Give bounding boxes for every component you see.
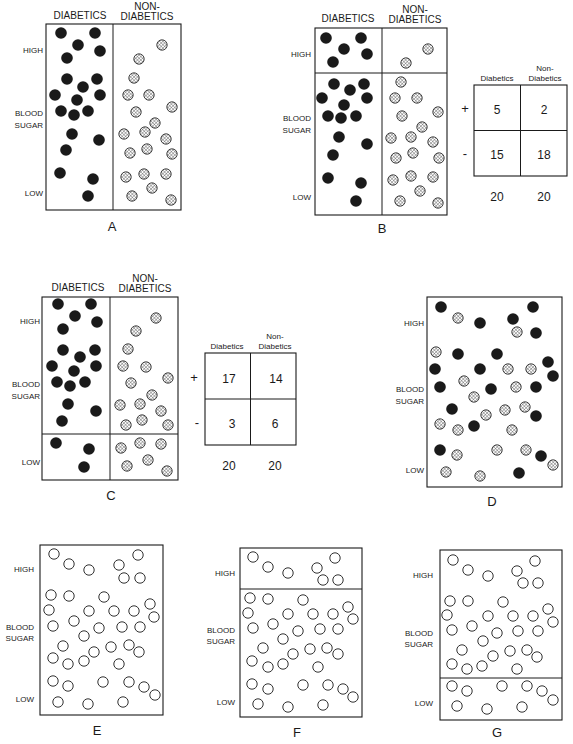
diabetic-dot [513,467,525,479]
non-diabetic-dot [435,419,445,429]
diabetic-dot [361,92,373,104]
diabetic-dot [94,89,106,101]
axis-sugar: SUGAR [283,126,312,135]
open-circle [447,659,457,669]
row-sign-negative: - [195,415,199,430]
open-circle [64,559,74,569]
panel-b: DIABETICS NON- DIABETICS HIGH BLOOD SUGA… [283,4,567,236]
open-circle [462,664,472,674]
axis-sugar: SUGAR [6,634,35,643]
non-diabetic-dot [512,327,522,337]
diabetic-dot [468,420,480,432]
panel-f: HIGH BLOOD SUGAR LOW F [207,548,362,740]
open-circle [518,578,528,588]
open-circle [79,656,89,666]
diabetic-dot [90,405,102,417]
axis-blood: BLOOD [396,385,424,394]
non-diabetic-dot [122,461,132,471]
diabetic-dot [69,310,81,322]
open-circle [145,599,155,609]
non-diabetic-dot [121,420,131,430]
open-circle [114,659,124,669]
open-circle [298,680,308,690]
non-diabetic-dot [441,467,451,477]
diabetic-dot [452,348,464,360]
diabetic-dot [54,167,66,179]
open-circle [98,677,108,687]
diabetic-dot [82,190,94,202]
open-circle [106,642,116,652]
open-circle [83,699,93,709]
open-circle [463,565,473,575]
non-diabetic-dot [129,73,139,83]
diabetic-dot [55,27,67,39]
open-circle [343,602,353,612]
panel-a: DIABETICS NON- DIABETICS HIGH BLOOD SUGA… [15,1,181,234]
diabetic-dot [333,131,345,143]
table-header-non-line1: Non- [266,332,284,341]
diabetic-dot [68,365,80,377]
open-circle [149,612,159,622]
non-diabetic-dot [156,406,166,416]
axis-high: HIGH [23,46,43,55]
open-circle [448,555,458,565]
open-circle [119,573,129,583]
non-diabetic-dot [166,195,176,205]
diabetic-dot [94,45,106,57]
open-circle [263,594,273,604]
panel-label-a: A [108,219,117,234]
open-circle [513,626,523,636]
open-circle [263,684,273,694]
diabetic-dot [91,73,103,85]
open-circle [467,621,477,631]
non-diabetic-dot [412,93,422,103]
open-circle [312,563,322,573]
header-diabetics: DIABETICS [54,10,107,21]
non-diabetic-dot [481,410,491,420]
non-diabetic-dot [126,378,136,388]
non-diabetic-dot [140,127,150,137]
cell-c-pos-nondiabetic: 14 [269,372,283,386]
header-diabetics: DIABETICS [322,13,375,24]
diabetic-dot [85,298,97,310]
open-circle [49,549,59,559]
diabetic-dot [361,138,373,150]
open-circle [48,676,58,686]
non-diabetic-dot [163,373,173,383]
open-circle [298,595,308,605]
open-circle [69,616,79,626]
diabetic-dot [344,84,356,96]
diabetic-dot [338,43,350,55]
non-diabetic-dot [469,392,479,402]
diabetic-dot [49,89,61,101]
diabetic-dot [83,443,95,455]
non-diabetic-dot [134,54,144,64]
open-circle [135,573,145,583]
cell-c-neg-nondiabetic: 6 [272,417,279,431]
axis-low: LOW [25,189,44,198]
panel-c: DIABETICS NON- DIABETICS HIGH BLOOD SUGA… [12,273,296,503]
diabetic-dot [89,344,101,356]
diabetic-dot [46,360,58,372]
axis-sugar: SUGAR [12,392,41,401]
open-circle [305,644,315,654]
open-circle [492,628,502,638]
non-diabetic-dot [141,362,151,372]
total-b-diabetic: 20 [490,190,504,204]
non-diabetic-dot [433,107,443,117]
open-circle [505,646,515,656]
open-circle [528,611,538,621]
non-diabetic-dot [125,148,135,158]
diabetic-dot [60,144,72,156]
open-circle [522,645,532,655]
panel-d: HIGH BLOOD SUGAR LOW D [396,297,562,509]
axis-low: LOW [22,458,41,467]
open-circle [442,610,452,620]
open-circle [247,656,257,666]
non-diabetic-dot [433,198,443,208]
open-circle [348,692,358,702]
open-circle [288,649,298,659]
diabetic-dot [316,92,328,104]
diabetic-dot [57,344,69,356]
open-circle [84,606,94,616]
